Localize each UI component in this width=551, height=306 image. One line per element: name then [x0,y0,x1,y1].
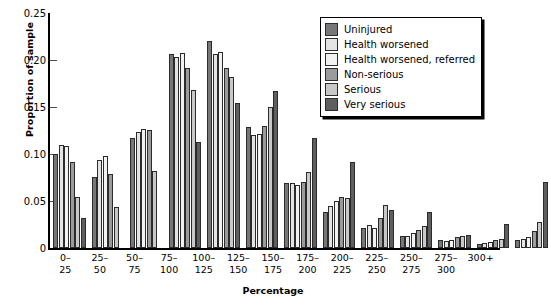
bar [306,172,311,248]
bar [136,132,141,248]
bar [59,145,64,248]
bar [213,54,218,248]
bar [53,154,58,248]
bar [191,90,196,248]
bar [493,240,498,248]
legend-label: Uninjured [344,24,392,35]
bar [108,174,113,248]
y-axis-tick-label: 0.20 [12,55,46,66]
x-axis-tick-labels: 0– 2525– 5050– 7575– 100100– 125125– 150… [48,252,498,275]
x-axis-tick-label: 300+ [463,252,498,275]
bar [268,107,273,248]
bar [482,243,487,248]
legend-label: Serious [344,84,381,95]
y-axis-tick-label: 0.15 [12,102,46,113]
bar [477,244,482,248]
legend-item: Non-serious [325,67,475,82]
bar [224,68,229,248]
bar [372,228,377,248]
bar [218,52,223,248]
bar [290,183,295,248]
bar [378,218,383,248]
bar [466,235,471,248]
bar [114,207,119,248]
legend-swatch-icon [325,38,338,51]
bar [345,198,350,248]
bar [422,226,427,248]
bar [229,77,234,248]
bar [504,224,509,248]
bar [185,68,190,248]
bar [521,239,526,248]
y-axis-tick-label: 0.25 [12,8,46,19]
bar-group [89,13,128,248]
bar [97,160,102,248]
bar [328,206,333,248]
bar [367,225,372,248]
bar [526,237,531,248]
bar [130,138,135,248]
legend-item: Health worsened, referred [325,52,475,67]
bar-group [166,13,205,248]
bar-group [512,13,551,248]
legend-item: Uninjured [325,22,475,37]
bar-group [127,13,166,248]
bar [438,240,443,248]
bar [169,54,174,248]
bar [411,233,416,248]
bar [389,210,394,248]
bar [75,197,80,248]
x-axis-tick-label: 250– 275 [394,252,429,275]
bar [416,230,421,248]
x-axis-title: Percentage [48,285,498,296]
bar [301,182,306,248]
y-axis-tick-label: 0.10 [12,149,46,160]
legend-label: Health worsened [344,39,429,50]
x-axis-tick-label: 150– 175 [256,252,291,275]
legend-swatch-icon [325,23,338,36]
bar [235,103,240,248]
bar [350,162,355,248]
bar [515,240,520,248]
bar [251,135,256,248]
chart-legend: UninjuredHealth worsenedHealth worsened,… [320,17,482,117]
bar [174,57,179,248]
bar [444,241,449,248]
x-axis-tick-label: 75– 100 [152,252,187,275]
bar [323,212,328,248]
bar [257,134,262,248]
legend-swatch-icon [325,68,338,81]
bar [400,236,405,248]
bar [81,218,86,248]
y-axis-tick-label: 0 [12,243,46,254]
x-axis-tick-label: 50– 75 [117,252,152,275]
bar [334,201,339,248]
bar [339,197,344,248]
bar [207,41,212,248]
legend-item: Health worsened [325,37,475,52]
bar [284,183,289,248]
bar [361,228,366,248]
bar-group [50,13,89,248]
legend-swatch-icon [325,53,338,66]
bar [152,171,157,248]
bar [64,146,69,248]
bar [262,126,267,248]
bar [246,127,251,248]
bar [147,130,152,248]
x-axis-tick-label: 125– 150 [221,252,256,275]
bar [537,222,542,248]
bar-group [243,13,282,248]
bar [103,156,108,248]
bar [427,212,432,248]
bar [532,231,537,248]
x-axis-tick-label: 175– 200 [290,252,325,275]
legend-label: Very serious [344,99,405,110]
bar [449,240,454,248]
x-axis-tick-label: 200– 225 [325,252,360,275]
bar [180,53,185,248]
bar [455,237,460,248]
bar [196,142,201,248]
legend-item: Serious [325,82,475,97]
